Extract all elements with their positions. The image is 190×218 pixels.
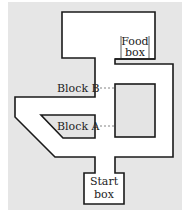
block-b-obstacle (115, 84, 155, 137)
block-b-label: Block B (57, 82, 100, 95)
food-box-label-2: box (125, 46, 146, 59)
maze-diagram: Food box Block A Block B Start box (0, 0, 190, 218)
start-box-label-2: box (94, 188, 115, 201)
start-box-label-1: Start (90, 175, 119, 188)
food-box: Food box (121, 35, 149, 59)
block-a-label: Block A (57, 120, 101, 133)
